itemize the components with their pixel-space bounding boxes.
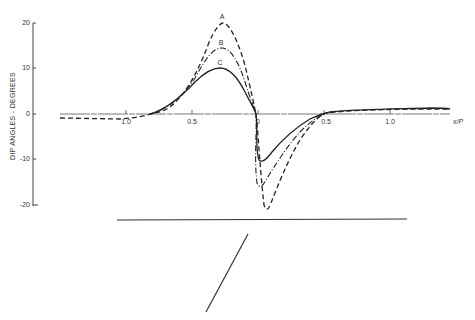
y-tick-20: 20 <box>22 19 30 26</box>
dip-angle-chart: 20 10 0 -10 -20 DIP ANGLES - DEGREES 1.0… <box>0 0 475 320</box>
y-axis-title: DIP ANGLES - DEGREES <box>9 72 16 160</box>
curve-a <box>60 23 450 209</box>
dipping-conductor <box>206 234 248 312</box>
curve-c <box>150 68 450 161</box>
x-axis: 1.0 0.5 0 0.5 1.0 x/P <box>60 110 463 125</box>
y-tick-neg10: -10 <box>20 155 30 162</box>
x-tick-right-0.5: 0.5 <box>321 118 331 125</box>
curve-a-label: A <box>220 13 225 20</box>
y-tick-0: 0 <box>26 110 30 117</box>
y-axis: 20 10 0 -10 -20 DIP ANGLES - DEGREES <box>9 19 38 208</box>
surface-line <box>117 219 407 220</box>
curve-c-label: C <box>217 59 222 66</box>
x-axis-title: x/P <box>452 118 463 125</box>
y-tick-10: 10 <box>22 64 30 71</box>
curve-b <box>150 48 326 186</box>
x-tick-left-0.5: 0.5 <box>187 118 197 125</box>
curve-b-label: B <box>219 39 224 46</box>
x-tick-right-1.0: 1.0 <box>385 118 395 125</box>
y-tick-neg20: -20 <box>20 201 30 208</box>
